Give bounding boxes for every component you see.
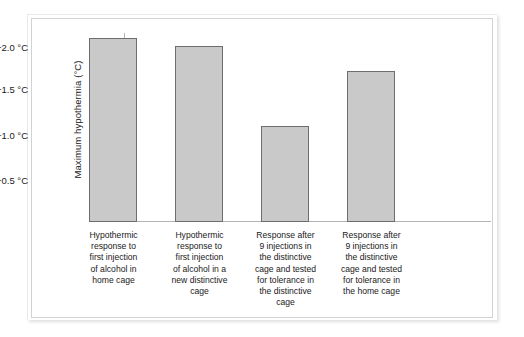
y-tick-label: −1.0 °C [0,130,28,141]
category-label-0: Hypothermicresponse tofirst injectionof … [80,230,147,286]
category-label-line: the distinctive [250,286,321,297]
category-label-3: Response after9 injections inthe distinc… [336,230,407,297]
category-label-line: 9 injections in [336,241,407,252]
category-label-line: Response after [250,230,321,241]
category-label-line: 9 injections in [250,241,321,252]
y-tick-label: −2.0 °C [0,42,28,53]
y-tick-label: −1.5 °C [0,84,28,95]
category-label-line: cage [166,286,233,297]
category-label-line: Response after [336,230,407,241]
category-label-line: for tolerance in [336,275,407,286]
figure-panel: Maximum hypothermia (°C) −2.0 °C−1.5 °C−… [27,14,497,320]
category-label-line: first injection [166,252,233,263]
category-label-line: of alcohol in a [166,264,233,275]
category-label-line: the home cage [336,286,407,297]
category-label-line: response to [166,241,233,252]
category-label-line: cage and tested [336,264,407,275]
category-label-line: the distinctive [250,252,321,263]
category-label-1: Hypothermicresponse tofirst injectionof … [166,230,233,297]
bar-3 [347,71,395,222]
category-label-line: response to [80,241,147,252]
category-label-line: first injection [80,252,147,263]
y-axis-title: Maximum hypothermia (°C) [72,45,83,195]
category-label-line: cage and tested [250,264,321,275]
bar-2 [261,126,309,222]
category-label-2: Response after9 injections inthe distinc… [250,230,321,308]
category-label-line: of alcohol in [80,264,147,275]
plot-frame: Maximum hypothermia (°C) −2.0 °C−1.5 °C−… [31,18,493,318]
bar-1 [175,46,223,222]
y-tick-label: −0.5 °C [0,175,28,186]
category-label-line: the distinctive [336,252,407,263]
category-label-line: home cage [80,275,147,286]
category-label-line: Hypothermic [166,230,233,241]
bar-0 [89,38,137,222]
plot-area: Maximum hypothermia (°C) −2.0 °C−1.5 °C−… [32,19,494,319]
category-label-line: for tolerance in [250,275,321,286]
category-label-line: cage [250,297,321,308]
category-label-line: Hypothermic [80,230,147,241]
category-label-line: new distinctive [166,275,233,286]
